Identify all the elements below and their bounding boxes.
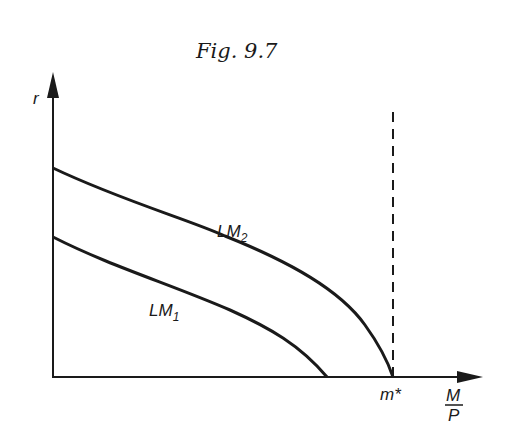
lm1-label: LM1 bbox=[149, 301, 179, 324]
x-axis-label-denominator: P bbox=[448, 406, 460, 425]
lm-diagram: Fig. 9.7 r LM2 LM1 m* M P bbox=[0, 0, 505, 444]
lm2-label: LM2 bbox=[217, 222, 248, 245]
lm2-curve bbox=[53, 168, 393, 377]
m-star-label: m* bbox=[380, 385, 402, 404]
y-axis-label: r bbox=[33, 89, 40, 108]
y-axis-arrow-icon bbox=[47, 72, 59, 98]
x-axis-arrow-icon bbox=[457, 371, 483, 383]
lm1-curve bbox=[53, 237, 327, 377]
figure-title: Fig. 9.7 bbox=[195, 39, 278, 63]
x-axis-label-numerator: M bbox=[446, 386, 461, 405]
